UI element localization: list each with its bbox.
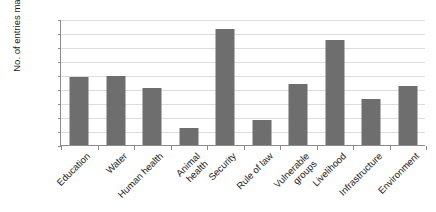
plot-area: 050100150200250300350400450 EducationWat… bbox=[60, 20, 425, 146]
gridline bbox=[61, 62, 425, 63]
y-tick-mark bbox=[58, 90, 61, 91]
x-tick-mark bbox=[244, 146, 245, 150]
x-tick-mark bbox=[98, 146, 99, 150]
y-tick-mark bbox=[58, 104, 61, 105]
y-tick-mark bbox=[58, 118, 61, 119]
gridline bbox=[61, 20, 425, 21]
x-tick-mark bbox=[390, 146, 391, 150]
bar bbox=[289, 84, 308, 145]
bar bbox=[106, 76, 125, 145]
y-tick-mark bbox=[58, 76, 61, 77]
bar bbox=[179, 128, 198, 145]
x-tick-mark bbox=[134, 146, 135, 150]
x-tick-mark bbox=[207, 146, 208, 150]
y-tick-mark bbox=[58, 132, 61, 133]
x-tick-mark bbox=[280, 146, 281, 150]
bar-chart: No. of entries mapped 050100150200250300… bbox=[0, 0, 436, 212]
y-tick-mark bbox=[58, 20, 61, 21]
bar bbox=[252, 120, 271, 145]
y-tick-mark bbox=[58, 62, 61, 63]
bar bbox=[398, 86, 417, 145]
y-axis-title: No. of entries mapped bbox=[10, 0, 24, 89]
bar bbox=[216, 29, 235, 145]
y-tick-mark bbox=[58, 48, 61, 49]
bar bbox=[70, 77, 89, 145]
gridline bbox=[61, 48, 425, 49]
x-tick-mark bbox=[317, 146, 318, 150]
bar bbox=[143, 88, 162, 145]
y-tick-mark bbox=[58, 34, 61, 35]
bar bbox=[325, 40, 344, 145]
x-tick-mark bbox=[61, 146, 62, 150]
gridline bbox=[61, 34, 425, 35]
x-tick-mark bbox=[353, 146, 354, 150]
x-tick-mark bbox=[171, 146, 172, 150]
x-tick-mark bbox=[426, 146, 427, 150]
bar bbox=[362, 99, 381, 145]
